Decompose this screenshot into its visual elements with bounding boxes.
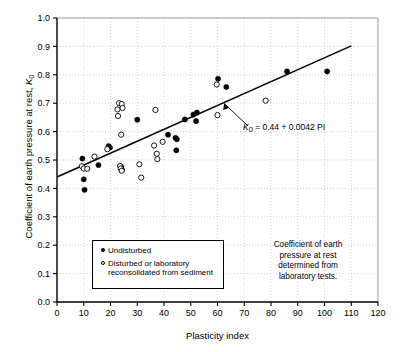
legend-item-disturbed: Disturbed or laboratory reconsolidated f… [98, 259, 219, 278]
scatter-plot-svg: 0.00.10.20.30.40.50.60.70.80.91.00102030… [0, 0, 409, 352]
data-point-undisturbed [224, 84, 229, 89]
y-axis-tick-label: 0.4 [37, 184, 50, 194]
note-line-3: determined from [278, 261, 338, 270]
data-point-disturbed [137, 162, 142, 167]
legend-label-disturbed-line2: reconsolidated from sediment [108, 268, 213, 277]
y-axis-tick-label: 0.0 [37, 297, 50, 307]
x-axis-tick-label: 100 [317, 308, 332, 318]
note-line-4: laboratory tests. [279, 272, 337, 281]
y-axis-tick-label: 0.3 [37, 212, 50, 222]
y-axis-tick-label: 0.2 [37, 240, 50, 250]
y-axis-title-text: Coefficient of earth pressure at rest, [23, 85, 34, 238]
legend-item-undisturbed: Undisturbed [98, 246, 219, 256]
legend-label-undisturbed: Undisturbed [108, 246, 219, 256]
data-point-disturbed [105, 147, 110, 152]
y-axis-tick-label: 0.5 [37, 155, 50, 165]
x-axis-tick-label: 50 [186, 308, 196, 318]
data-point-disturbed [155, 157, 160, 162]
data-point-disturbed [139, 175, 144, 180]
x-axis-tick-label: 40 [159, 308, 169, 318]
x-axis-tick-label: 60 [212, 308, 222, 318]
y-axis-symbol: K [23, 79, 34, 85]
y-axis-tick-label: 1.0 [37, 13, 50, 23]
data-point-undisturbed [174, 148, 179, 153]
data-point-disturbed [263, 98, 268, 103]
x-axis-tick-label: 0 [54, 308, 59, 318]
data-point-disturbed [119, 168, 124, 173]
data-point-disturbed [115, 113, 120, 118]
x-axis-tick-label: 110 [344, 308, 358, 318]
legend-label-disturbed-line1: Disturbed or laboratory [108, 259, 189, 268]
x-axis-tick-label: 20 [105, 308, 115, 318]
data-point-undisturbed [194, 118, 199, 123]
x-axis-tick-label: 10 [79, 308, 89, 318]
equation-expression: = 0.44 + 0.0042 PI [253, 122, 325, 132]
data-point-disturbed [85, 166, 90, 171]
trendline-equation-label: K0 = 0.44 + 0.0042 PI [243, 122, 325, 134]
y-axis-tick-label: 0.7 [37, 98, 50, 108]
data-point-disturbed [119, 132, 124, 137]
y-axis-tick-label: 0.8 [37, 70, 50, 80]
note-line-2: pressure at rest [280, 251, 337, 260]
data-point-disturbed [92, 154, 97, 159]
data-point-undisturbed [325, 69, 330, 74]
data-point-undisturbed [165, 132, 170, 137]
data-point-undisturbed [194, 110, 199, 115]
chart-figure: 0.00.10.20.30.40.50.60.70.80.91.00102030… [0, 0, 409, 352]
y-axis-title: Coefficient of earth pressure at rest, K… [23, 72, 36, 242]
data-point-undisturbed [174, 137, 179, 142]
y-axis-tick-label: 0.9 [37, 42, 50, 52]
y-axis-tick-label: 0.1 [37, 269, 50, 279]
x-axis-tick-label: 30 [132, 308, 142, 318]
trendline [57, 46, 351, 177]
open-circle-icon [98, 259, 108, 265]
x-axis-tick-label: 120 [370, 308, 385, 318]
data-point-undisturbed [182, 117, 187, 122]
filled-circle-icon [98, 246, 108, 252]
note-text: Coefficient of earth pressure at rest de… [243, 240, 373, 282]
data-point-undisturbed [82, 187, 87, 192]
data-point-undisturbed [80, 156, 85, 161]
y-axis-tick-label: 0.6 [37, 127, 50, 137]
data-point-disturbed [214, 82, 219, 87]
data-point-undisturbed [284, 69, 289, 74]
data-point-undisturbed [81, 177, 86, 182]
data-point-disturbed [120, 105, 125, 110]
x-axis-tick-label: 70 [239, 308, 249, 318]
data-point-disturbed [153, 107, 158, 112]
data-point-disturbed [215, 113, 220, 118]
data-point-undisturbed [215, 76, 220, 81]
data-point-disturbed [160, 139, 165, 144]
x-axis-tick-label: 90 [293, 308, 303, 318]
data-point-undisturbed [96, 163, 101, 168]
chart-legend: Undisturbed Disturbed or laboratory reco… [92, 240, 224, 289]
data-point-disturbed [154, 151, 159, 156]
data-point-disturbed [115, 107, 120, 112]
x-axis-title: Plasticity index [57, 330, 378, 341]
x-axis-tick-label: 80 [266, 308, 276, 318]
data-point-undisturbed [135, 117, 140, 122]
note-line-1: Coefficient of earth [274, 240, 343, 249]
y-axis-subscript: 0 [27, 75, 36, 79]
data-point-disturbed [152, 143, 157, 148]
legend-label-disturbed: Disturbed or laboratory reconsolidated f… [108, 259, 219, 278]
